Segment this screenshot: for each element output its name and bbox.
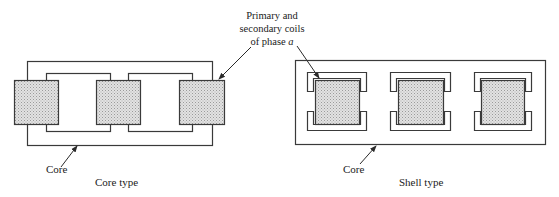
shell-type-coil-group-2: [391, 73, 451, 131]
phase-variable: a: [288, 36, 293, 47]
shell-type-core-label: Core: [343, 163, 364, 176]
core-type-caption: Core type: [95, 176, 138, 189]
shell-type-coil-group-3: [475, 73, 532, 131]
core-type-coil-2: [97, 81, 141, 125]
callout-line-3: of phase a: [224, 35, 320, 48]
core-type-coil-3-phase-a: [180, 81, 225, 125]
callout-line-2: secondary coils: [224, 22, 320, 35]
core-type-coils: [15, 81, 225, 125]
shell-type-coil-group-1: [308, 73, 367, 131]
core-type-core-label: Core: [46, 163, 67, 176]
core-type-coil-1: [15, 81, 59, 125]
callout-arrow-core-type: [219, 47, 251, 79]
coil-callout-label: Primary and secondary coils of phase a: [224, 9, 320, 48]
callout-line-1: Primary and: [224, 9, 320, 22]
shell-type-caption: Shell type: [399, 176, 443, 189]
shell-type-core-arrow: [360, 146, 376, 164]
shell-type-diagram: [296, 61, 546, 145]
